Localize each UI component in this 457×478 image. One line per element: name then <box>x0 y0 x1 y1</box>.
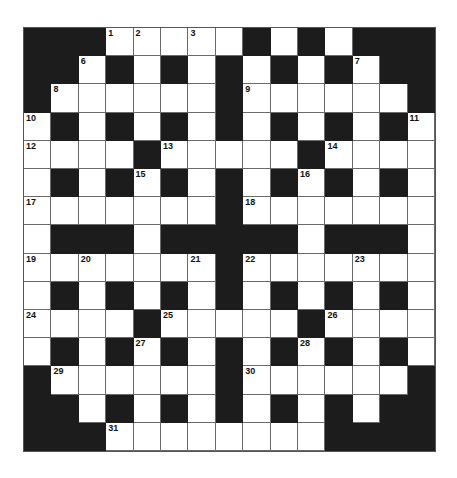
white-square[interactable] <box>298 225 325 253</box>
white-square[interactable] <box>243 423 270 451</box>
white-square[interactable] <box>79 113 106 141</box>
white-square[interactable] <box>106 141 133 169</box>
white-square[interactable]: 24 <box>24 310 51 338</box>
white-square[interactable]: 17 <box>24 197 51 225</box>
white-square[interactable] <box>106 366 133 394</box>
white-square[interactable] <box>298 282 325 310</box>
white-square[interactable] <box>188 113 215 141</box>
white-square[interactable]: 10 <box>24 113 51 141</box>
white-square[interactable] <box>134 56 161 84</box>
white-square[interactable] <box>51 197 78 225</box>
white-square[interactable] <box>353 197 380 225</box>
white-square[interactable] <box>134 423 161 451</box>
white-square[interactable]: 14 <box>325 141 352 169</box>
white-square[interactable] <box>79 395 106 423</box>
white-square[interactable] <box>325 84 352 112</box>
white-square[interactable]: 25 <box>161 310 188 338</box>
white-square[interactable] <box>161 423 188 451</box>
white-square[interactable] <box>408 197 435 225</box>
white-square[interactable] <box>51 254 78 282</box>
white-square[interactable] <box>353 310 380 338</box>
white-square[interactable] <box>216 423 243 451</box>
white-square[interactable] <box>298 395 325 423</box>
white-square[interactable] <box>325 254 352 282</box>
white-square[interactable] <box>188 338 215 366</box>
white-square[interactable]: 15 <box>134 169 161 197</box>
white-square[interactable] <box>188 197 215 225</box>
white-square[interactable] <box>243 395 270 423</box>
white-square[interactable] <box>188 169 215 197</box>
white-square[interactable]: 16 <box>298 169 325 197</box>
white-square[interactable] <box>79 84 106 112</box>
white-square[interactable] <box>216 28 243 56</box>
white-square[interactable]: 18 <box>243 197 270 225</box>
white-square[interactable] <box>188 141 215 169</box>
white-square[interactable]: 11 <box>408 113 435 141</box>
white-square[interactable]: 3 <box>188 28 215 56</box>
white-square[interactable] <box>408 225 435 253</box>
white-square[interactable] <box>79 169 106 197</box>
white-square[interactable] <box>271 310 298 338</box>
white-square[interactable] <box>188 84 215 112</box>
white-square[interactable] <box>134 113 161 141</box>
white-square[interactable] <box>408 169 435 197</box>
white-square[interactable]: 27 <box>134 338 161 366</box>
white-square[interactable] <box>161 366 188 394</box>
white-square[interactable] <box>243 310 270 338</box>
white-square[interactable] <box>298 197 325 225</box>
white-square[interactable] <box>188 366 215 394</box>
white-square[interactable] <box>408 141 435 169</box>
white-square[interactable] <box>243 282 270 310</box>
white-square[interactable]: 8 <box>51 84 78 112</box>
white-square[interactable]: 30 <box>243 366 270 394</box>
white-square[interactable] <box>380 366 407 394</box>
white-square[interactable] <box>79 366 106 394</box>
white-square[interactable] <box>134 84 161 112</box>
white-square[interactable]: 22 <box>243 254 270 282</box>
white-square[interactable]: 13 <box>161 141 188 169</box>
white-square[interactable] <box>79 310 106 338</box>
white-square[interactable] <box>79 282 106 310</box>
white-square[interactable] <box>188 395 215 423</box>
white-square[interactable] <box>134 225 161 253</box>
white-square[interactable]: 23 <box>353 254 380 282</box>
white-square[interactable] <box>106 84 133 112</box>
white-square[interactable] <box>353 141 380 169</box>
white-square[interactable]: 31 <box>106 423 133 451</box>
white-square[interactable] <box>408 254 435 282</box>
white-square[interactable]: 9 <box>243 84 270 112</box>
white-square[interactable] <box>271 84 298 112</box>
white-square[interactable]: 26 <box>325 310 352 338</box>
white-square[interactable] <box>216 141 243 169</box>
white-square[interactable] <box>243 113 270 141</box>
white-square[interactable] <box>380 254 407 282</box>
white-square[interactable] <box>216 310 243 338</box>
white-square[interactable] <box>243 338 270 366</box>
white-square[interactable] <box>188 310 215 338</box>
white-square[interactable] <box>79 338 106 366</box>
white-square[interactable] <box>243 56 270 84</box>
white-square[interactable] <box>79 197 106 225</box>
white-square[interactable] <box>271 141 298 169</box>
white-square[interactable] <box>271 254 298 282</box>
white-square[interactable]: 12 <box>24 141 51 169</box>
white-square[interactable] <box>353 84 380 112</box>
white-square[interactable] <box>353 113 380 141</box>
white-square[interactable] <box>24 282 51 310</box>
white-square[interactable] <box>161 254 188 282</box>
white-square[interactable] <box>24 225 51 253</box>
white-square[interactable]: 7 <box>353 56 380 84</box>
white-square[interactable] <box>298 423 325 451</box>
white-square[interactable] <box>380 310 407 338</box>
white-square[interactable] <box>380 197 407 225</box>
white-square[interactable] <box>353 282 380 310</box>
white-square[interactable] <box>408 310 435 338</box>
white-square[interactable] <box>243 141 270 169</box>
white-square[interactable] <box>134 366 161 394</box>
white-square[interactable] <box>298 56 325 84</box>
white-square[interactable]: 1 <box>106 28 133 56</box>
white-square[interactable]: 28 <box>298 338 325 366</box>
white-square[interactable] <box>325 28 352 56</box>
white-square[interactable] <box>106 254 133 282</box>
white-square[interactable] <box>353 366 380 394</box>
